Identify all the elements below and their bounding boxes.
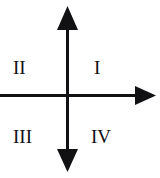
coordinate-axes [0, 0, 160, 178]
quadrant-label-2: II [13, 58, 26, 77]
y-axis-arrow-up-icon [57, 6, 78, 30]
y-axis-arrow-down-icon [57, 149, 78, 172]
quadrant-label-1: I [94, 58, 100, 77]
x-axis-arrow-right-icon [135, 86, 156, 105]
quadrant-diagram: I II III IV [0, 0, 160, 178]
quadrant-label-4: IV [91, 127, 111, 146]
quadrant-label-3: III [13, 127, 32, 146]
